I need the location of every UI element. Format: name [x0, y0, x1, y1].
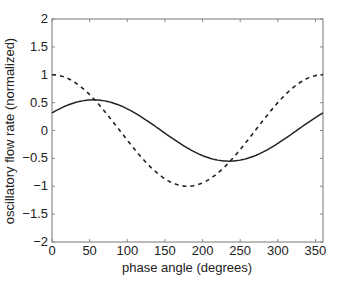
- series-dashed: [52, 75, 323, 187]
- x-tick-label: 250: [229, 243, 251, 258]
- y-tick-label: 1: [41, 67, 48, 82]
- x-tick-label: 150: [154, 243, 176, 258]
- y-tick-label: −1.5: [22, 206, 48, 221]
- plot-frame: [52, 19, 323, 242]
- axis-ticks: 05010015020025030035021.510.50−0.5−1−1.5…: [22, 11, 326, 258]
- y-axis-label: oscillatory flow rate (normalized): [2, 38, 17, 224]
- x-tick-label: 100: [116, 243, 138, 258]
- x-tick-label: 350: [305, 243, 327, 258]
- series-solid: [52, 100, 323, 161]
- y-tick-label: 0: [41, 123, 48, 138]
- x-tick-label: 300: [267, 243, 289, 258]
- x-tick-label: 0: [48, 243, 55, 258]
- y-tick-label: −1: [33, 178, 48, 193]
- y-tick-label: −0.5: [22, 150, 48, 165]
- y-tick-label: 0.5: [30, 95, 48, 110]
- y-tick-label: 1.5: [30, 39, 48, 54]
- y-tick-label: −2: [33, 234, 48, 249]
- x-tick-label: 200: [192, 243, 214, 258]
- y-tick-label: 2: [41, 11, 48, 26]
- x-axis-label: phase angle (degrees): [122, 260, 252, 275]
- line-chart: 05010015020025030035021.510.50−0.5−1−1.5…: [0, 0, 339, 281]
- x-tick-label: 50: [82, 243, 96, 258]
- data-series: [52, 75, 323, 187]
